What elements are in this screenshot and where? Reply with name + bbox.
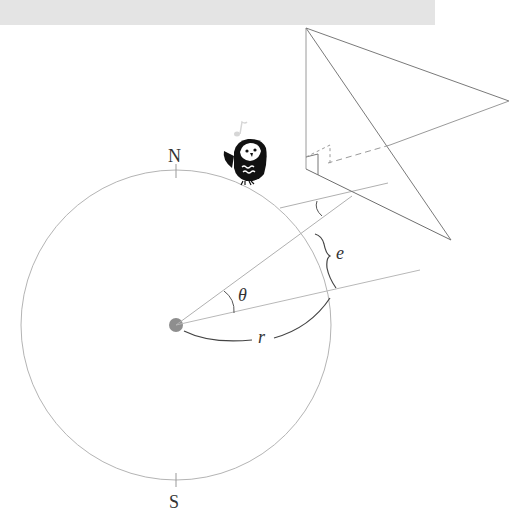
north-label: N — [168, 146, 181, 166]
sight-ray — [280, 183, 388, 208]
r-label: r — [258, 327, 266, 347]
sight-angle-arc — [316, 201, 322, 216]
r-arc-left — [184, 331, 252, 341]
e-brace — [315, 234, 336, 288]
theta-label: θ — [238, 285, 247, 305]
music-note-icon — [234, 122, 247, 137]
pyramid-bottom-edge — [306, 169, 451, 240]
base-ray — [176, 270, 420, 325]
e-label: e — [336, 243, 344, 263]
pyramid-top-right-edge — [306, 28, 509, 101]
pyramid — [306, 28, 509, 240]
earth-geometry-diagram: N S θ e r — [0, 0, 520, 524]
pyramid-hidden-edge — [328, 145, 390, 163]
r-arc-right — [274, 298, 330, 338]
pyramid-right-lower-edge — [390, 101, 509, 145]
pyramid-diagonal-edge — [306, 28, 451, 240]
theta-angle-arc — [224, 291, 234, 313]
south-label: S — [169, 492, 179, 512]
owl-icon — [224, 139, 267, 185]
